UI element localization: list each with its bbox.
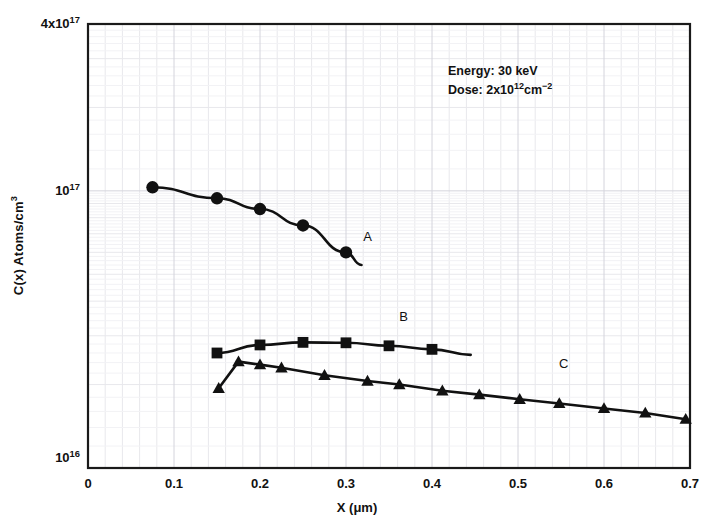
- x-tick-label-2: 0.2: [230, 476, 290, 491]
- annotation-energy: Energy: 30 keV: [448, 62, 552, 81]
- y-tick-label-1e16: 1016: [8, 450, 80, 465]
- data-point-a-3: [297, 219, 309, 231]
- data-point-b-1: [255, 340, 266, 351]
- annotation-dose: Dose: 2x1012cm−2: [448, 81, 552, 100]
- data-point-b-3: [341, 337, 352, 348]
- x-tick-label-3: 0.3: [316, 476, 376, 491]
- x-tick-label-0: 0: [58, 476, 118, 491]
- data-point-b-4: [384, 340, 395, 351]
- data-point-a-4: [340, 246, 352, 258]
- plot-background: [88, 24, 690, 468]
- data-point-b-0: [212, 348, 223, 359]
- y-tick-label-1e17: 1017: [8, 183, 80, 198]
- chart-annotation-box: Energy: 30 keV Dose: 2x1012cm−2: [448, 62, 552, 100]
- x-tick-label-5: 0.5: [488, 476, 548, 491]
- series-label-b: B: [399, 309, 408, 324]
- data-point-a-0: [146, 181, 158, 193]
- x-tick-label-4: 0.4: [402, 476, 462, 491]
- data-point-a-1: [211, 192, 223, 204]
- y-tick-label-4e17: 4x1017: [8, 16, 80, 31]
- data-point-b-2: [298, 337, 309, 348]
- x-axis-title: X (μm): [0, 500, 714, 515]
- data-point-a-2: [254, 203, 266, 215]
- x-tick-label-6: 0.6: [574, 476, 634, 491]
- x-tick-label-7: 0.7: [660, 476, 714, 491]
- x-tick-label-1: 0.1: [144, 476, 204, 491]
- chart-plot-area: ABC: [0, 0, 714, 530]
- series-label-c: C: [559, 356, 568, 371]
- data-point-b-5: [427, 344, 438, 355]
- chart-figure: ABC C(x) Atoms/cm3 X (μm) 4x1017 1017 10…: [0, 0, 714, 530]
- series-label-a: A: [363, 229, 372, 244]
